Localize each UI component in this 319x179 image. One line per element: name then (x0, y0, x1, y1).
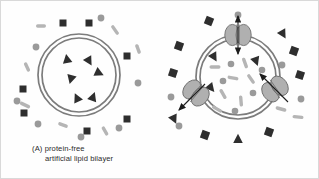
solute-square-exterior (200, 130, 210, 140)
solute-triangle-interior (250, 56, 262, 68)
solute-square-exterior (21, 110, 28, 117)
lipid-dash-interior (242, 57, 249, 68)
solute-triangle-interior (61, 53, 72, 64)
lipid-dash-exterior (110, 25, 119, 36)
membrane-outer-leaflet (38, 34, 120, 116)
lipid-dash-interior (246, 74, 255, 85)
solute-dot-exterior (98, 15, 105, 22)
lipid-dash-interior (239, 95, 243, 106)
solute-dot-exterior (14, 98, 21, 105)
solute-square-exterior (204, 16, 214, 26)
lipid-dash-exterior (292, 115, 303, 119)
solute-square-exterior (124, 116, 131, 123)
solute-dot-exterior (35, 121, 42, 128)
lipid-dash-interior (211, 105, 222, 113)
solute-square-exterior (174, 41, 184, 51)
solute-square-exterior (289, 46, 299, 56)
solute-triangle-exterior (233, 134, 243, 143)
solute-triangle-interior (93, 67, 105, 80)
panel-a-caption: (A) protein-freeartificial lipid bilayer (32, 144, 113, 163)
solute-dot-exterior (33, 44, 40, 51)
panel-b-cell-membrane: (B) cell membrane (161, 1, 319, 179)
solute-square-exterior (168, 68, 178, 78)
solute-triangle-interior (70, 91, 83, 103)
solute-dot-interior (232, 108, 239, 115)
solute-dot-interior (220, 78, 227, 85)
solute-square-exterior (124, 53, 131, 60)
solute-dot-exterior (298, 96, 305, 103)
panel-b-diagram (161, 1, 319, 147)
solute-triangle-interior (87, 90, 99, 102)
panel-a-artificial-bilayer: (A) protein-freeartificial lipid bilayer (1, 1, 160, 179)
lipid-dash-exterior (19, 101, 30, 109)
solute-dot-interior (228, 61, 235, 68)
solute-dot-interior (259, 67, 266, 74)
solute-dot-exterior (176, 123, 183, 130)
lipid-dash-exterior (58, 122, 69, 129)
solute-square-exterior (20, 86, 27, 93)
solute-triangle-exterior (277, 28, 290, 41)
lipid-dash-interior (210, 65, 221, 68)
panel-a-diagram (1, 1, 160, 144)
solute-dot-interior (250, 90, 257, 97)
figure-container: (A) protein-freeartificial lipid bilayer… (0, 0, 319, 179)
lipid-dash-interior (219, 88, 227, 99)
solute-triangle-interior (83, 55, 96, 68)
panel-a-caption-line2: artificial lipid bilayer (32, 154, 113, 164)
lipid-dash-interior (227, 75, 238, 80)
solute-square-exterior (60, 20, 67, 27)
solute-triangle-interior (65, 74, 77, 85)
panel-a-caption-line1: (A) protein-free (32, 144, 85, 153)
solute-triangle-interior (208, 51, 221, 64)
solute-dot-exterior (168, 94, 175, 101)
solute-dot-exterior (116, 125, 123, 132)
solute-square-exterior (295, 70, 305, 80)
lipid-dash-exterior (23, 62, 30, 72)
lipid-dash-exterior (101, 126, 109, 136)
solute-square-exterior (86, 20, 93, 27)
solute-dot-exterior (135, 80, 142, 87)
lipid-dash-exterior (36, 24, 46, 27)
solute-dot-exterior (78, 134, 85, 141)
solute-square-exterior (264, 127, 274, 137)
lipid-dash-exterior (275, 106, 287, 112)
lipid-dash-exterior (135, 44, 142, 55)
solute-square-exterior (84, 128, 91, 135)
